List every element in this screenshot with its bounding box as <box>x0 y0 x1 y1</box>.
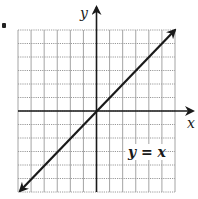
bullet-marker <box>2 23 6 28</box>
line-equation-label: y = x <box>127 144 167 160</box>
graph-figure: yxy = x <box>0 0 198 199</box>
coordinate-plane: yxy = x <box>0 0 198 199</box>
x-axis-label: x <box>187 115 195 131</box>
y-axis-label: y <box>79 5 89 21</box>
